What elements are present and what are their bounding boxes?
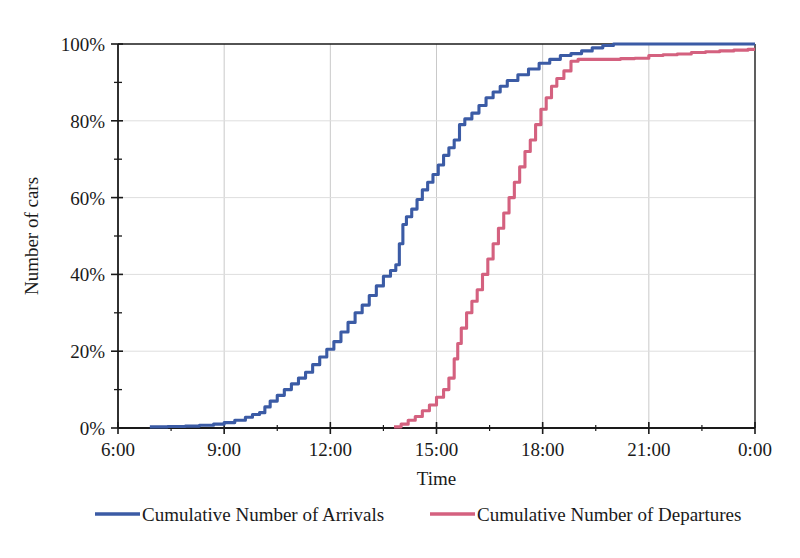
x-tick-label: 12:00	[309, 439, 352, 460]
legend-label-arrivals: Cumulative Number of Arrivals	[142, 504, 384, 525]
y-tick-label: 0%	[80, 418, 106, 439]
chart-figure: 6:009:0012:0015:0018:0021:000:00 0%20%40…	[0, 0, 800, 558]
legend-label-departures: Cumulative Number of Departures	[477, 504, 741, 525]
x-tick-label: 18:00	[521, 439, 564, 460]
x-tick-label: 9:00	[207, 439, 241, 460]
y-tick-label: 80%	[70, 111, 105, 132]
chart-background	[0, 0, 800, 558]
x-tick-label: 0:00	[738, 439, 772, 460]
x-tick-label: 21:00	[627, 439, 670, 460]
x-tick-label: 15:00	[415, 439, 458, 460]
y-tick-label: 60%	[70, 188, 105, 209]
cumulative-arrivals-departures-chart: 6:009:0012:0015:0018:0021:000:00 0%20%40…	[0, 0, 800, 558]
y-tick-label: 20%	[70, 341, 105, 362]
x-axis-title: Time	[417, 468, 456, 489]
y-tick-label: 40%	[70, 264, 105, 285]
y-axis-title: Number of cars	[21, 177, 42, 295]
x-tick-label: 6:00	[101, 439, 135, 460]
y-tick-label: 100%	[61, 34, 106, 55]
